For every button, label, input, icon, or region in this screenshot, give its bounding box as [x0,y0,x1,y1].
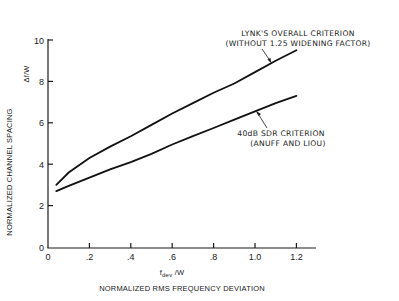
y-tick-label: 2 [39,201,44,211]
y-tick-label: 10 [34,36,44,46]
x-axis-title: NORMALIZED RMS FREQUENCY DEVIATION [99,284,265,293]
annotation-sdr-line2: (ANUFF AND LIOU) [250,139,325,148]
x-tick-label: .8 [210,252,218,262]
x-ticks: 0 .2 .4 .6 .8 1.0 1.2 [45,243,302,262]
y-tick-label: 6 [39,118,44,128]
x-tick-label: .6 [168,252,176,262]
annotation-sdr-line1: 40dB SDR CRITERION [237,129,324,138]
arrowhead-icon [256,111,261,116]
annotation-lynk-line1: LYNK'S OVERALL CRITERION [241,29,354,38]
y-tick-label: 4 [39,160,44,170]
chart: 10 8 6 4 2 0 0 .2 .4 .6 .8 1.0 1.2 Δf/W … [0,0,399,301]
x-tick-label: 1.0 [249,252,262,262]
x-symbol-rest: /W [172,268,185,277]
y-tick-label: 0 [39,243,44,253]
y-axis-title: NORMALIZED CHANNEL SPACING [5,108,14,235]
y-axis-symbol: Δf/W [22,65,31,83]
x-axis-symbol: fdev /W [160,268,185,278]
x-tick-label: .4 [127,252,135,262]
arrowhead-icon [268,58,272,63]
annotation-sdr: 40dB SDR CRITERION (ANUFF AND LIOU) [237,111,325,148]
x-tick-label: 1.2 [290,252,303,262]
annotation-lynk: LYNK'S OVERALL CRITERION (WITHOUT 1.25 W… [225,29,370,63]
annotation-lynk-line2: (WITHOUT 1.25 WIDENING FACTOR) [225,39,370,48]
y-tick-label: 8 [39,77,44,87]
x-tick-label: 0 [45,252,50,262]
y-ticks: 10 8 6 4 2 0 [34,36,53,253]
x-tick-label: .2 [86,252,94,262]
x-symbol-sub: dev [162,272,172,278]
